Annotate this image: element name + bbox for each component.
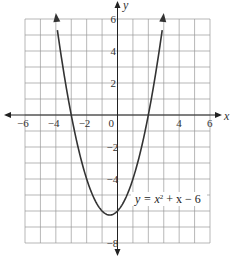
svg-text:6: 6 xyxy=(111,13,117,25)
equation-label: y = x2 + x − 6 xyxy=(134,192,201,206)
svg-text:2: 2 xyxy=(111,77,117,89)
svg-text:−8: −8 xyxy=(107,237,119,249)
graph: −6−4−2046642−2−4−8 x y y = x2 + x − 6 xyxy=(0,0,232,258)
svg-text:4: 4 xyxy=(176,117,182,129)
x-axis-label: x xyxy=(223,109,230,123)
y-axis-label: y xyxy=(122,0,129,12)
svg-text:−2: −2 xyxy=(107,141,119,153)
svg-text:−4: −4 xyxy=(48,117,60,129)
svg-text:−6: −6 xyxy=(17,117,29,129)
svg-text:6: 6 xyxy=(207,117,213,129)
svg-text:−2: −2 xyxy=(79,117,91,129)
svg-text:4: 4 xyxy=(111,45,117,57)
svg-text:−4: −4 xyxy=(107,173,119,185)
svg-text:0: 0 xyxy=(109,117,115,129)
